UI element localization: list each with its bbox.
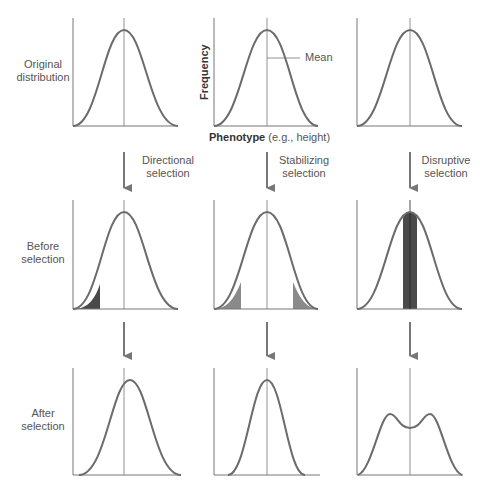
x-axis-title: Phenotype (e.g., height): [209, 131, 330, 143]
row-label-line: distribution: [8, 71, 78, 84]
row-label-line: Before: [8, 240, 78, 253]
panel-before-stabilizing: [214, 200, 318, 309]
selection-label-line: selection: [264, 167, 344, 180]
row-label-line: Original: [8, 58, 78, 71]
row-label-line: selection: [8, 420, 78, 433]
label-disruptive-selection: Disruptive selection: [406, 154, 480, 180]
y-axis-title: Frequency: [198, 44, 210, 100]
panel-before-directional: [73, 200, 178, 309]
label-stabilizing-selection: Stabilizing selection: [264, 154, 344, 180]
row-label-line: After: [8, 407, 78, 420]
row-label-original: Original distribution: [8, 58, 78, 84]
selection-label-line: selection: [128, 167, 208, 180]
selection-label-line: Stabilizing: [264, 154, 344, 167]
row-label-after: After selection: [8, 407, 78, 433]
panel-after-directional: [73, 368, 181, 475]
selection-label-line: Disruptive: [406, 154, 480, 167]
panel-before-disruptive: [357, 200, 462, 309]
panel-after-stabilizing: [214, 368, 320, 475]
panel-original-directional: [73, 18, 178, 126]
row-label-before: Before selection: [8, 240, 78, 266]
panel-original-disruptive: [357, 18, 462, 126]
x-axis-title-bold: Phenotype: [209, 131, 265, 143]
label-directional-selection: Directional selection: [128, 154, 208, 180]
row-label-line: selection: [8, 253, 78, 266]
selected-region-right-tail: [293, 282, 318, 309]
x-axis-title-note: (e.g., height): [265, 131, 330, 143]
selected-region-left-tail: [214, 282, 241, 309]
panel-after-disruptive: [357, 368, 463, 475]
panel-original-stabilizing: [214, 18, 318, 126]
selection-label-line: selection: [406, 167, 480, 180]
selection-label-line: Directional: [128, 154, 208, 167]
mean-label: Mean: [305, 51, 333, 63]
